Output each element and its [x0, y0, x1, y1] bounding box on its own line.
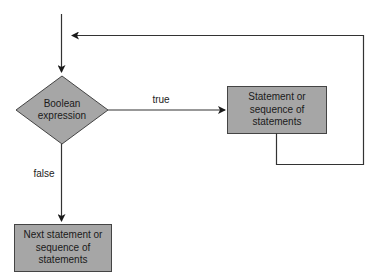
loop-body-label: Statement or sequence of statements — [227, 86, 327, 134]
next-statement-label: Next statement or sequence of statements — [14, 224, 112, 272]
condition-line-2: expression — [38, 110, 86, 123]
next-line-1: Next statement or — [24, 229, 103, 242]
loop-body-line-2: sequence of — [250, 104, 305, 117]
false-edge-label: false — [30, 168, 58, 180]
condition-line-1: Boolean — [44, 98, 81, 111]
true-edge-label: true — [148, 94, 174, 106]
next-line-3: statements — [39, 254, 88, 267]
loop-body-line-1: Statement or — [248, 91, 305, 104]
next-line-2: sequence of — [36, 242, 91, 255]
condition-label: Boolean expression — [22, 97, 102, 123]
loop-body-line-3: statements — [253, 116, 302, 129]
